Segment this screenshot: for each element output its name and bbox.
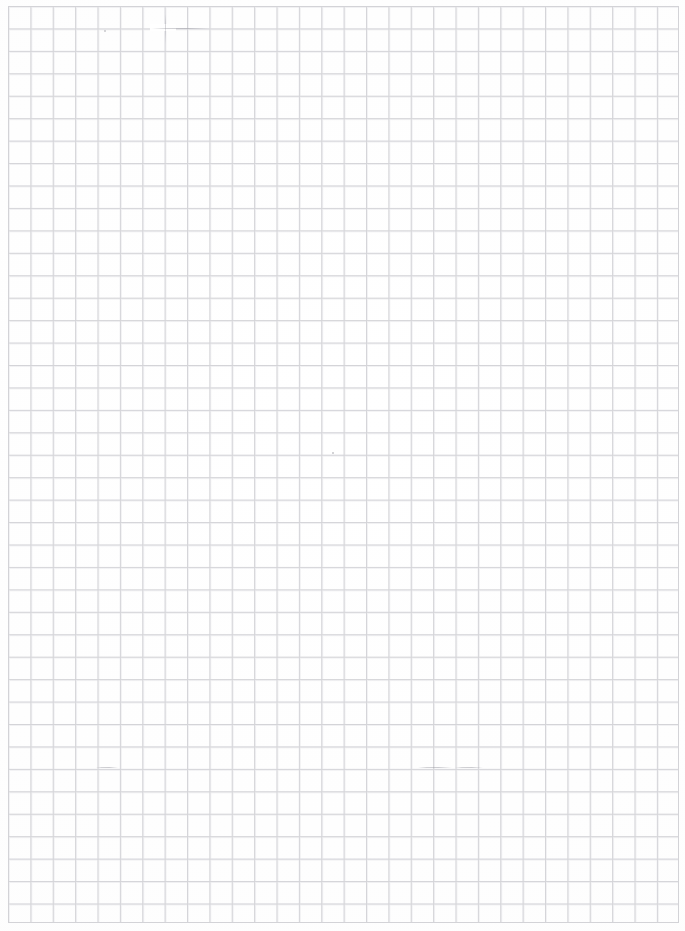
grid-edge-right [678, 6, 679, 923]
grid-lines [8, 6, 679, 923]
grid-edge-left [8, 6, 9, 923]
grid-edge-top [8, 6, 679, 7]
scanned-grid-paper-page [0, 0, 685, 931]
grid-edge-bottom [8, 922, 679, 923]
